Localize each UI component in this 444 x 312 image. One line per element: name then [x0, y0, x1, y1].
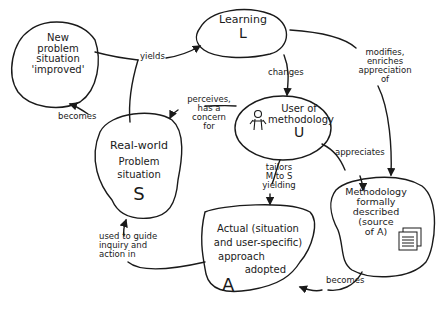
node-user: User of methodology U [268, 104, 330, 140]
edge-label-modifies: modifies, enriches appreciation of [350, 48, 420, 84]
node-methodology-line-5: of A) [336, 227, 416, 237]
person-icon [250, 111, 266, 131]
edge-label-changes: changes [268, 68, 304, 77]
node-new-problem: New problem situation 'improved' [28, 33, 88, 75]
edge-label-appreciates: appreciates [335, 148, 385, 157]
node-real-world-line-3: situation [100, 170, 178, 181]
node-actual-line-1: Actual (situation [208, 224, 308, 235]
soft-systems-diagram: New problem situation 'improved' Learnin… [0, 0, 444, 312]
edge-label-perceives: perceives, has a concern for [180, 95, 238, 131]
node-new-problem-line-3: situation [28, 54, 88, 65]
node-user-line-1: User of [268, 104, 330, 115]
edge-label-perceives-line-4: for [180, 122, 238, 131]
node-user-letter: U [268, 125, 330, 140]
node-actual-line-3: approach [208, 252, 308, 263]
node-real-world: Real-world Problem situation S [100, 140, 178, 203]
edge-label-becomes-top: becomes [58, 112, 96, 121]
node-learning: Learning L [208, 14, 278, 40]
edge-label-yields: yields [140, 52, 165, 61]
node-learning-title: Learning [208, 14, 278, 26]
node-methodology: Methodology formally described (source o… [336, 187, 416, 237]
node-real-world-line-2: Problem [100, 157, 178, 168]
node-real-world-letter: S [100, 185, 178, 204]
node-learning-letter: L [208, 26, 278, 41]
edge-label-used-to-guide-line-3: action in [99, 250, 169, 259]
edge-label-tailors-line-3: yielding [256, 181, 302, 190]
edge-label-becomes-bottom: becomes [326, 276, 364, 285]
edge-label-modifies-line-4: of [350, 75, 420, 84]
node-new-problem-line-4: 'improved' [28, 65, 88, 76]
node-actual-letter: A [222, 276, 234, 295]
node-new-problem-line-1: New [28, 33, 88, 44]
edge-label-used-to-guide: used to guide inquiry and action in [99, 232, 169, 259]
edge-label-tailors: tailors M to S yielding [256, 163, 302, 190]
node-actual: Actual (situation and user-specific) app… [208, 224, 308, 275]
node-actual-line-2: and user-specific) [208, 238, 308, 249]
node-real-world-line-1: Real-world [100, 140, 178, 152]
